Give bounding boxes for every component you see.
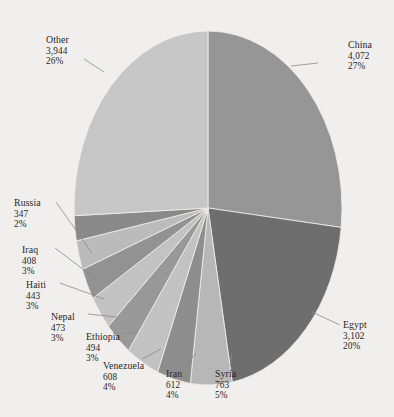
slice-label-name: Iran [166,369,182,380]
slice-label-value: 408 [22,256,38,266]
pie-chart: China4,07227%Egypt3,10220%Syria7635%Iran… [0,0,394,417]
slice-label-haiti: Haiti4433% [26,280,46,312]
leader-line-egypt [312,312,340,325]
pie-slice-other[interactable] [74,31,208,216]
slice-label-name: Other [46,35,69,46]
slice-label-name: Iraq [22,245,38,256]
slice-label-value: 4,072 [348,51,372,61]
slice-label-percent: 3% [86,353,120,363]
slice-label-name: Haiti [26,280,46,291]
slice-label-value: 494 [86,343,120,353]
slice-label-ethiopia: Ethiopia4943% [86,332,120,364]
slice-label-name: Ethiopia [86,332,120,343]
slice-label-percent: 20% [343,341,367,351]
slice-label-percent: 4% [103,382,144,392]
slice-label-value: 473 [51,323,75,333]
slice-label-value: 612 [166,380,182,390]
slice-label-venezuela: Venezuela6084% [103,361,144,393]
slice-label-percent: 3% [26,301,46,311]
slice-label-name: Egypt [343,320,367,331]
pie-slice-china[interactable] [208,31,342,227]
leader-line-other [84,59,104,72]
slice-label-percent: 27% [348,61,372,71]
slice-label-other: Other3,94426% [46,35,69,67]
slice-label-percent: 2% [14,219,41,229]
slice-label-percent: 3% [22,266,38,276]
slice-label-iraq: Iraq4083% [22,245,38,277]
slice-label-percent: 26% [46,56,69,66]
slice-label-nepal: Nepal4733% [51,312,75,344]
slice-label-value: 3,944 [46,46,69,56]
slice-label-value: 763 [215,380,236,390]
slice-label-value: 347 [14,209,41,219]
slice-label-value: 443 [26,291,46,301]
slice-label-russia: Russia3472% [14,198,41,230]
slice-label-name: Russia [14,198,41,209]
leader-line-china [291,63,318,66]
slice-label-name: Syria [215,369,236,380]
slice-label-egypt: Egypt3,10220% [343,320,367,352]
slice-label-value: 608 [103,372,144,382]
slice-label-value: 3,102 [343,331,367,341]
slice-label-percent: 5% [215,390,236,400]
slice-label-name: Nepal [51,312,75,323]
slice-label-china: China4,07227% [348,40,372,72]
slice-label-syria: Syria7635% [215,369,236,401]
slice-label-percent: 4% [166,390,182,400]
slice-label-name: China [348,40,372,51]
slice-label-iran: Iran6124% [166,369,182,401]
slice-label-percent: 3% [51,333,75,343]
